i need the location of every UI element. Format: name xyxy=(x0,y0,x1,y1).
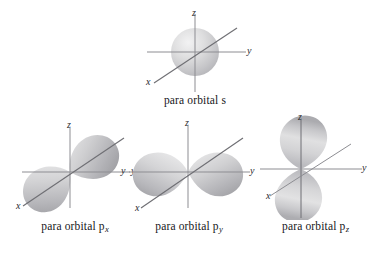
orbital-pz-diagram xyxy=(252,112,379,220)
py-lobe-positive xyxy=(188,153,243,197)
caption-text: para orbital s xyxy=(164,94,226,106)
py-lobe-negative xyxy=(133,153,188,197)
caption-text: para orbital p xyxy=(41,220,104,232)
z-axis-label: z xyxy=(192,8,196,18)
orbital-py-diagram xyxy=(119,116,259,220)
caption-orbital-s: para orbital s xyxy=(129,94,261,107)
pz-lobe-positive xyxy=(280,116,327,169)
z-axis-label: z xyxy=(298,112,302,122)
x-axis-label: x xyxy=(266,191,270,201)
panel-orbital-py: z y y x para orbital py xyxy=(119,116,259,248)
x-axis-label: x xyxy=(16,201,20,211)
z-axis-label: z xyxy=(185,118,189,128)
caption-orbital-pz: para orbital pz xyxy=(252,220,379,236)
y-axis-label: y xyxy=(362,163,366,173)
caption-text: para orbital p xyxy=(282,220,345,232)
caption-subscript: z xyxy=(345,224,349,234)
x-axis-label: x xyxy=(146,77,150,87)
pz-lobe-negative xyxy=(275,169,322,220)
y-axis-label: y xyxy=(247,46,251,56)
caption-text: para orbital p xyxy=(155,220,218,232)
panel-orbital-s: z y x para orbital s xyxy=(129,8,261,112)
panel-orbital-pz: z y x para orbital pz xyxy=(252,112,379,248)
z-axis-label: z xyxy=(67,120,71,130)
x-axis-label: x xyxy=(135,203,139,213)
caption-orbital-py: para orbital py xyxy=(119,220,259,236)
y-axis-label-left: y xyxy=(121,166,125,176)
caption-subscript: x xyxy=(105,224,109,234)
orbital-shapes-figure: z y x para orbital s xyxy=(0,0,379,256)
caption-subscript: y xyxy=(219,224,223,234)
